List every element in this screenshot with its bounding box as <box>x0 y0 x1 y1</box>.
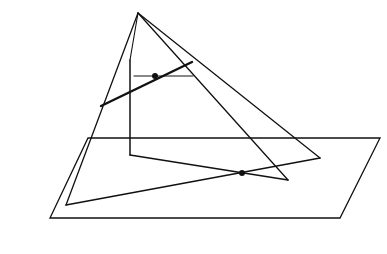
front-edge <box>138 13 288 180</box>
inner-edge <box>130 13 138 60</box>
pyramid-edges <box>66 13 320 205</box>
lower-point <box>239 170 245 176</box>
upper-point <box>152 73 158 79</box>
right-edge <box>138 13 320 158</box>
transversal-line <box>101 62 192 106</box>
geometry-diagram <box>0 0 387 254</box>
left-edge <box>66 13 138 205</box>
diagram-canvas <box>0 0 387 254</box>
